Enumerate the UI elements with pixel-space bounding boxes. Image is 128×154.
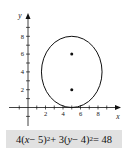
x-axis-arrow-icon bbox=[115, 105, 121, 110]
y-tick-label: 8 bbox=[21, 33, 24, 40]
equation-label: 4(x − 5)2 + 3(y − 4)2 = 48 bbox=[6, 130, 122, 148]
y-tick-label: 4 bbox=[21, 68, 25, 75]
x-tick-label: 2 bbox=[44, 110, 47, 117]
focus-point-lower bbox=[70, 88, 73, 91]
focus-point-upper bbox=[70, 53, 73, 56]
x-tick-label: 4 bbox=[61, 110, 65, 117]
equation-part: − 5) bbox=[29, 134, 46, 145]
x-axis: 2 4 6 8 x bbox=[9, 105, 121, 121]
equation-part: + 3( bbox=[50, 134, 67, 145]
y-tick-label: 6 bbox=[21, 50, 25, 57]
y-axis-label: y bbox=[17, 11, 22, 20]
y-tick-label: 2 bbox=[21, 86, 24, 93]
equation-part: − 4) bbox=[72, 134, 89, 145]
equation-part: 4( bbox=[16, 134, 25, 145]
x-axis-label: x bbox=[115, 112, 120, 121]
x-tick-label: 8 bbox=[96, 110, 99, 117]
ellipse-curve bbox=[41, 36, 102, 107]
x-tick-label: 6 bbox=[79, 110, 83, 117]
y-axis-arrow-icon bbox=[26, 13, 31, 19]
ellipse-plot: 2 4 6 8 x 2 4 6 8 y bbox=[0, 0, 128, 128]
equation-part: = 48 bbox=[93, 134, 112, 145]
